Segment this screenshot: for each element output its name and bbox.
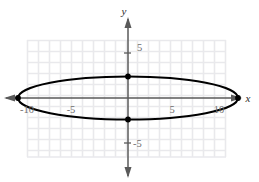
y-tick-label-pos5: 5 — [137, 42, 142, 53]
plot-canvas: y x -10 -5 5 10 5 -5 — [0, 0, 259, 182]
y-tick-label-neg5: -5 — [133, 138, 142, 149]
y-axis-label: y — [121, 5, 127, 17]
x-axis-left-arrow — [4, 95, 15, 102]
vertex-left — [15, 95, 21, 101]
ellipse-graph-figure: y x -10 -5 5 10 5 -5 — [0, 0, 259, 182]
x-tick-label-neg5: -5 — [67, 104, 76, 115]
co-vertex-top — [125, 74, 131, 80]
y-axis-down-arrow — [125, 167, 132, 178]
co-vertex-bottom — [125, 117, 131, 123]
x-tick-label-neg10: -10 — [20, 104, 34, 115]
x-axis-label: x — [245, 92, 251, 104]
x-tick-label-pos10: 10 — [214, 104, 225, 115]
x-tick-label-pos5: 5 — [169, 104, 174, 115]
vertex-right — [235, 95, 241, 101]
y-axis-up-arrow — [125, 17, 132, 28]
